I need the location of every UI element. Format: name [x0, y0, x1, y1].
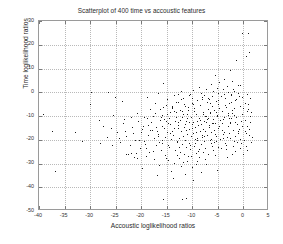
data-point [251, 112, 252, 113]
data-point [213, 123, 214, 124]
gridline-horizontal [39, 92, 267, 93]
data-point [224, 94, 225, 95]
data-point [204, 136, 205, 137]
data-point [196, 114, 197, 115]
data-point [233, 130, 234, 131]
scatterplot-figure: Scatterplot of 400 time vs accoustic fea… [0, 0, 283, 244]
data-point [75, 132, 76, 133]
data-point [167, 99, 168, 100]
data-point [178, 102, 179, 103]
data-point [205, 159, 206, 160]
data-point [209, 125, 210, 126]
y-axis-label: Time loglikelihood ratios [22, 0, 29, 129]
data-point [186, 130, 187, 131]
data-point [214, 110, 215, 111]
x-axis-tick [141, 206, 142, 209]
data-point [226, 145, 227, 146]
data-point [235, 136, 236, 137]
data-point [249, 129, 250, 130]
data-point [193, 133, 194, 134]
data-point [188, 156, 189, 157]
y-tick-label: -20 [14, 135, 34, 141]
y-axis-tick [39, 187, 42, 188]
data-point [189, 129, 190, 130]
data-point [132, 127, 133, 128]
data-point [161, 117, 162, 118]
data-point [191, 136, 192, 137]
data-point [107, 137, 108, 138]
data-point [220, 139, 221, 140]
data-point [228, 92, 229, 93]
data-point [207, 102, 208, 103]
data-point [219, 126, 220, 127]
y-axis-tick [39, 164, 42, 165]
data-point [223, 89, 224, 90]
data-point [174, 111, 175, 112]
data-point [232, 154, 233, 155]
data-point [223, 138, 224, 139]
x-axis-tick [218, 206, 219, 209]
gridline-horizontal [39, 69, 267, 70]
y-axis-tick [39, 45, 42, 46]
x-tick-label: -40 [26, 212, 50, 218]
data-point [229, 103, 230, 104]
data-point [249, 52, 250, 53]
x-axis-tick [65, 21, 66, 24]
data-point [166, 105, 167, 106]
data-point [248, 109, 249, 110]
data-point [201, 124, 202, 125]
x-axis-tick [90, 21, 91, 24]
data-point [230, 138, 231, 139]
data-point [166, 121, 167, 122]
data-point [156, 127, 157, 128]
data-point [186, 121, 187, 122]
data-point [220, 120, 221, 121]
data-point [203, 114, 204, 115]
data-point [236, 99, 237, 100]
data-point [128, 154, 129, 155]
data-point [241, 143, 242, 144]
x-axis-tick [243, 206, 244, 209]
data-point [192, 124, 193, 125]
gridline-vertical [243, 21, 244, 209]
data-point [239, 129, 240, 130]
data-point [212, 106, 213, 107]
data-point [196, 153, 197, 154]
data-point [250, 122, 251, 123]
data-point [187, 118, 188, 119]
data-point [226, 107, 227, 108]
data-point [224, 79, 225, 80]
data-point [184, 104, 185, 105]
data-point [232, 81, 233, 82]
data-point [174, 163, 175, 164]
data-point [197, 140, 198, 141]
data-point [175, 150, 176, 151]
data-point [172, 108, 173, 109]
data-point [162, 143, 163, 144]
data-point [182, 111, 183, 112]
data-point [250, 116, 251, 117]
data-point [43, 114, 44, 115]
data-point [168, 160, 169, 161]
data-point [248, 33, 249, 34]
data-point [238, 93, 239, 94]
data-point [103, 126, 104, 127]
data-point [158, 93, 159, 94]
data-point [194, 146, 195, 147]
data-point [221, 96, 222, 97]
data-point [242, 126, 243, 127]
data-point [198, 151, 199, 152]
data-point [152, 130, 153, 131]
data-point [225, 98, 226, 99]
data-point [217, 170, 218, 171]
gridline-vertical [141, 21, 142, 209]
data-point [138, 121, 139, 122]
data-point [197, 161, 198, 162]
data-point [211, 143, 212, 144]
data-point [180, 152, 181, 153]
data-point [252, 137, 253, 138]
data-point [218, 93, 219, 94]
data-point [238, 133, 239, 134]
data-point [153, 151, 154, 152]
data-point [231, 102, 232, 103]
